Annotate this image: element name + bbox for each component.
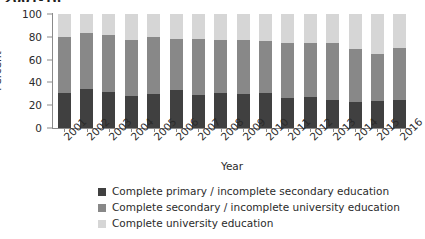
bar-slot [277,14,299,128]
x-label-slot: 2013 [322,134,344,164]
y-axis-title: Percent [0,51,3,91]
x-label-slot: 2004 [120,134,142,164]
bar-segment [214,14,227,40]
stacked-bar[interactable] [58,14,71,128]
x-axis-title: Year [221,160,243,172]
x-label-slot: 2016 [389,134,411,164]
legend-label: Complete primary / incomplete secondary … [112,186,389,197]
bar-segment [349,14,362,49]
bar-segment [371,14,384,54]
y-tick-label: 20 [8,100,42,111]
stacked-bar[interactable] [102,14,115,128]
stacked-bar[interactable] [237,14,250,128]
bar-segment [326,43,339,100]
bar-segment [349,49,362,101]
bar-segment [170,14,183,39]
bar-slot [389,14,411,128]
y-tick-label: 80 [8,32,42,43]
stacked-bar[interactable] [170,14,183,128]
y-tick-label: 0 [8,123,42,134]
bar-segment [259,41,272,92]
bar-segment [80,33,93,89]
legend-item[interactable]: Complete secondary / incomplete universi… [98,201,400,214]
stacked-bar[interactable] [281,14,294,128]
legend-item[interactable]: Complete university education [98,217,400,230]
chart-legend: Complete primary / incomplete secondary … [98,185,400,233]
bar-segment [102,14,115,35]
bar-segment [125,40,138,96]
legend-swatch-icon [98,204,106,212]
bar-slot [143,14,165,128]
y-tick-mark [47,105,52,106]
bar-segment [147,37,160,94]
stacked-bar[interactable] [371,14,384,128]
bar-slot [344,14,366,128]
bar-slot [165,14,187,128]
y-tick-mark [47,59,52,60]
bar-slot [366,14,388,128]
stacked-bar[interactable] [393,14,406,128]
x-label-slot: 2015 [366,134,388,164]
stacked-bar[interactable] [192,14,205,128]
bar-segment [125,14,138,40]
bar-slot [187,14,209,128]
bar-slot [75,14,97,128]
legend-item[interactable]: Complete primary / incomplete secondary … [98,185,400,198]
bar-segment [192,39,205,95]
bar-segment [281,14,294,43]
y-tick-mark [47,14,52,15]
bar-segment [237,14,250,40]
x-label-slot: 2010 [254,134,276,164]
stacked-bar[interactable] [214,14,227,128]
bar-slot [210,14,232,128]
legend-label: Complete university education [112,218,273,229]
bar-slot [232,14,254,128]
legend-swatch-icon [98,188,106,196]
y-tick-mark [47,128,52,129]
bar-segment [58,93,71,128]
bar-segment [147,14,160,37]
bar-segment [214,40,227,92]
bar-segment [304,43,317,98]
x-label-slot: 2014 [344,134,366,164]
bar-slot [120,14,142,128]
x-label-slot: 2011 [277,134,299,164]
bar-slot [322,14,344,128]
bar-group [53,14,411,128]
bar-slot [98,14,120,128]
stacked-bar-chart: 2001-16 Percent 020406080100 20012002200… [0,0,425,239]
bar-slot [299,14,321,128]
bar-segment [170,39,183,90]
y-tick-label: 100 [8,9,42,20]
stacked-bar[interactable] [304,14,317,128]
chart-title-fragment: 2001-16 [4,0,61,2]
stacked-bar[interactable] [259,14,272,128]
x-label-slot: 2007 [187,134,209,164]
x-label-slot: 2012 [299,134,321,164]
stacked-bar[interactable] [326,14,339,128]
legend-label: Complete secondary / incomplete universi… [112,202,400,213]
stacked-bar[interactable] [147,14,160,128]
bar-slot [53,14,75,128]
y-tick-label: 60 [8,54,42,65]
bar-segment [259,14,272,41]
bar-slot [254,14,276,128]
stacked-bar[interactable] [80,14,93,128]
bar-segment [326,14,339,43]
y-tick-mark [47,36,52,37]
legend-swatch-icon [98,220,106,228]
x-label-slot: 2001 [53,134,75,164]
bar-segment [58,14,71,37]
x-label-slot: 2006 [165,134,187,164]
stacked-bar[interactable] [349,14,362,128]
bar-segment [58,37,71,93]
x-label-slot: 2002 [75,134,97,164]
bar-segment [393,14,406,48]
bar-segment [80,14,93,33]
stacked-bar[interactable] [125,14,138,128]
bar-segment [393,48,406,99]
bar-segment [281,43,294,99]
x-label-slot: 2005 [143,134,165,164]
bar-segment [371,54,384,101]
bar-segment [192,14,205,39]
